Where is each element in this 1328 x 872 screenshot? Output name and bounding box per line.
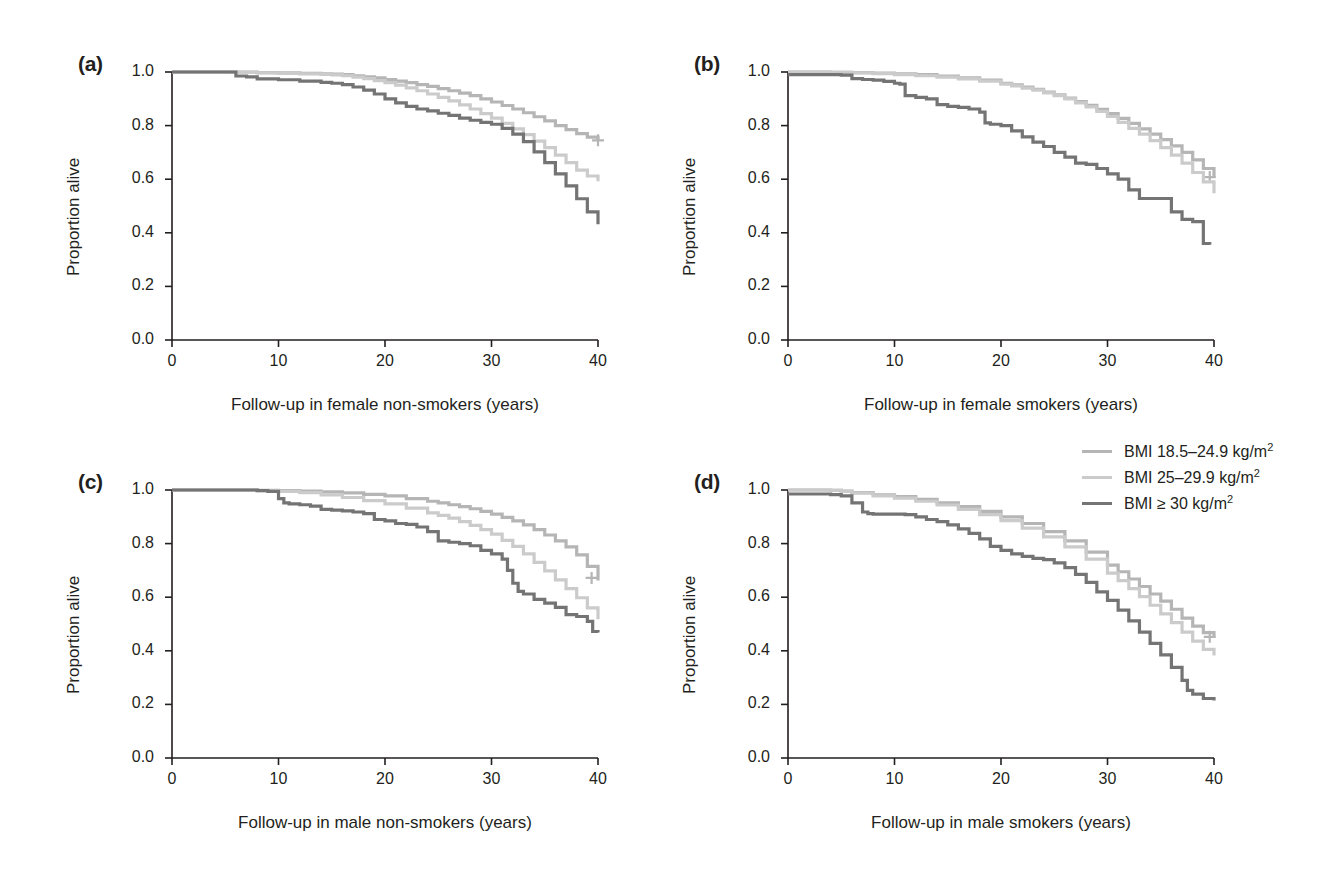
x-tick-label: 30 bbox=[467, 352, 517, 370]
legend-item-normal[interactable]: BMI 18.5–24.9 kg/m2 bbox=[1082, 438, 1326, 464]
x-tick-label: 0 bbox=[763, 770, 813, 788]
censor-mark bbox=[1204, 171, 1216, 183]
x-tick-label: 40 bbox=[573, 770, 623, 788]
legend-label-obese: BMI ≥ 30 kg/m2 bbox=[1124, 493, 1233, 513]
legend-swatch-obese bbox=[1082, 502, 1112, 505]
survival-curve bbox=[172, 72, 598, 140]
panel-plot-d bbox=[0, 0, 1328, 872]
y-tick-label: 0.4 bbox=[110, 641, 154, 659]
x-tick-label: 10 bbox=[254, 352, 304, 370]
x-tick-label: 20 bbox=[976, 770, 1026, 788]
y-axis-title-b: Proportion alive bbox=[680, 158, 700, 276]
y-tick-label: 1.0 bbox=[110, 480, 154, 498]
legend-superscript: 2 bbox=[1267, 441, 1273, 453]
y-tick-label: 0.0 bbox=[726, 748, 770, 766]
censor-mark bbox=[592, 134, 604, 146]
legend-swatch-overweight bbox=[1082, 476, 1112, 479]
y-tick-label: 1.0 bbox=[110, 62, 154, 80]
x-axis-title-c: Follow-up in male non-smokers (years) bbox=[125, 813, 645, 833]
y-tick-label: 0.2 bbox=[110, 694, 154, 712]
panel-plot-c bbox=[0, 0, 1328, 872]
y-tick-label: 0.2 bbox=[726, 694, 770, 712]
panel-plot-a bbox=[0, 0, 1328, 872]
y-axis-title-a: Proportion alive bbox=[64, 158, 84, 276]
y-tick-label: 0.6 bbox=[726, 169, 770, 187]
survival-curve bbox=[172, 490, 598, 633]
y-tick-label: 0.8 bbox=[726, 534, 770, 552]
x-tick-label: 10 bbox=[870, 770, 920, 788]
x-tick-label: 30 bbox=[1083, 770, 1133, 788]
legend-label-overweight: BMI 25–29.9 kg/m2 bbox=[1124, 467, 1260, 487]
legend-swatch-normal bbox=[1082, 450, 1112, 453]
x-tick-label: 30 bbox=[467, 770, 517, 788]
x-tick-label: 0 bbox=[763, 352, 813, 370]
y-tick-label: 0.6 bbox=[726, 587, 770, 605]
y-axis-title-d: Proportion alive bbox=[680, 576, 700, 694]
y-tick-label: 0.0 bbox=[110, 748, 154, 766]
y-tick-label: 0.8 bbox=[726, 116, 770, 134]
figure-root: (a)Follow-up in female non-smokers (year… bbox=[0, 0, 1328, 872]
x-tick-label: 10 bbox=[870, 352, 920, 370]
x-tick-label: 40 bbox=[1189, 770, 1239, 788]
x-tick-label: 0 bbox=[147, 352, 197, 370]
x-tick-label: 40 bbox=[573, 352, 623, 370]
x-tick-label: 20 bbox=[360, 352, 410, 370]
survival-curve bbox=[172, 490, 598, 619]
x-tick-label: 20 bbox=[360, 770, 410, 788]
censor-mark bbox=[586, 572, 598, 584]
survival-curve bbox=[172, 490, 598, 581]
x-tick-label: 40 bbox=[1189, 352, 1239, 370]
y-tick-label: 0.4 bbox=[110, 223, 154, 241]
x-axis-title-a: Follow-up in female non-smokers (years) bbox=[125, 395, 645, 415]
x-axis-title-d: Follow-up in male smokers (years) bbox=[741, 813, 1261, 833]
y-tick-label: 0.8 bbox=[110, 116, 154, 134]
chart-legend: BMI 18.5–24.9 kg/m2BMI 25–29.9 kg/m2BMI … bbox=[1082, 438, 1326, 516]
panel-plot-b bbox=[0, 0, 1328, 872]
panel-label-c: (c) bbox=[78, 470, 103, 494]
y-tick-label: 0.2 bbox=[110, 276, 154, 294]
survival-curve bbox=[172, 72, 598, 181]
x-axis-title-b: Follow-up in female smokers (years) bbox=[741, 395, 1261, 415]
survival-curve bbox=[788, 72, 1214, 193]
x-tick-label: 10 bbox=[254, 770, 304, 788]
legend-superscript: 2 bbox=[1227, 493, 1233, 505]
y-tick-label: 1.0 bbox=[726, 480, 770, 498]
survival-curve bbox=[788, 72, 1214, 177]
survival-curve bbox=[788, 75, 1210, 245]
y-tick-label: 0.6 bbox=[110, 169, 154, 187]
y-tick-label: 1.0 bbox=[726, 62, 770, 80]
y-tick-label: 0.0 bbox=[726, 330, 770, 348]
y-tick-label: 0.6 bbox=[110, 587, 154, 605]
legend-item-overweight[interactable]: BMI 25–29.9 kg/m2 bbox=[1082, 464, 1326, 490]
legend-item-obese[interactable]: BMI ≥ 30 kg/m2 bbox=[1082, 490, 1326, 516]
x-tick-label: 30 bbox=[1083, 352, 1133, 370]
censor-mark bbox=[1204, 631, 1216, 643]
y-axis-title-c: Proportion alive bbox=[64, 576, 84, 694]
y-tick-label: 0.4 bbox=[726, 223, 770, 241]
y-tick-label: 0.2 bbox=[726, 276, 770, 294]
panel-label-a: (a) bbox=[78, 52, 103, 76]
survival-curve bbox=[172, 72, 598, 224]
survival-curve bbox=[788, 494, 1214, 700]
panel-label-d: (d) bbox=[694, 470, 720, 494]
legend-label-normal: BMI 18.5–24.9 kg/m2 bbox=[1124, 441, 1273, 461]
y-tick-label: 0.8 bbox=[110, 534, 154, 552]
legend-superscript: 2 bbox=[1254, 467, 1260, 479]
y-tick-label: 0.0 bbox=[110, 330, 154, 348]
y-tick-label: 0.4 bbox=[726, 641, 770, 659]
x-tick-label: 20 bbox=[976, 352, 1026, 370]
panel-label-b: (b) bbox=[694, 52, 720, 76]
x-tick-label: 0 bbox=[147, 770, 197, 788]
